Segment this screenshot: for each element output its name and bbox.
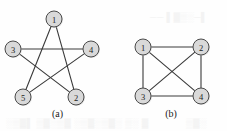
caption-b: (b): [115, 108, 227, 119]
node-label-2: 2: [199, 43, 203, 53]
pentagram-graph-drawing: 12345: [0, 0, 115, 110]
caption-a: (a): [0, 108, 115, 119]
graph-node-1: 1: [46, 11, 63, 28]
complete-graph-k4-drawing: 1234: [115, 0, 227, 110]
graph-node-1: 1: [135, 39, 152, 56]
figure-panel-b: 1234 (b): [115, 0, 227, 131]
node-label-5: 5: [21, 93, 25, 103]
graph-node-3: 3: [5, 41, 22, 58]
node-label-2: 2: [74, 93, 78, 103]
node-label-3: 3: [141, 92, 145, 102]
graph-node-3: 3: [135, 88, 152, 105]
node-label-1: 1: [52, 15, 56, 25]
graph-node-5: 5: [15, 89, 32, 106]
node-label-1: 1: [141, 43, 145, 53]
edge-group: [19, 26, 84, 92]
edge-group: [143, 47, 201, 96]
graph-node-2: 2: [193, 39, 210, 56]
figure-container: ── ▌▓▒░─▌░▒▓▌ ▒▓░▒▓ ░▒▓░▒▓░ ▒░ ▓▒▓░ 1234…: [0, 0, 227, 131]
graph-node-4: 4: [83, 41, 100, 58]
graph-edge-1-2: [56, 27, 74, 90]
graph-node-2: 2: [68, 89, 85, 106]
node-label-3: 3: [11, 45, 15, 55]
figure-panel-a: 12345 (a): [0, 0, 115, 131]
graph-node-4: 4: [193, 88, 210, 105]
